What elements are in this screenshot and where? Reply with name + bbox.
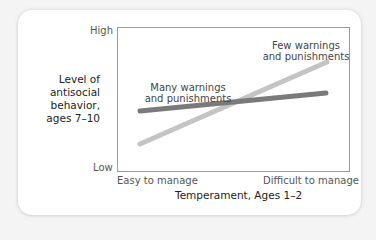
- y-label-line: behavior,: [22, 99, 100, 112]
- y-label-line: Level of: [22, 73, 100, 86]
- annotation-line: Many warnings: [128, 82, 248, 93]
- annotation-line: Few warnings: [256, 40, 356, 51]
- x-tick-easy: Easy to manage: [117, 175, 198, 186]
- annotation-few-warnings: Few warnings and punishments: [256, 40, 356, 62]
- y-tick-low: Low: [93, 162, 113, 173]
- y-label-line: antisocial: [22, 86, 100, 99]
- annotation-many-warnings: Many warnings and punishments: [128, 82, 248, 104]
- y-axis-label: Level of antisocial behavior, ages 7–10: [22, 73, 100, 125]
- x-axis-title: Temperament, Ages 1–2: [175, 189, 302, 201]
- y-tick-high: High: [90, 25, 113, 36]
- y-label-line: ages 7–10: [22, 112, 100, 125]
- annotation-line: and punishments: [128, 93, 248, 104]
- annotation-line: and punishments: [256, 51, 356, 62]
- x-tick-difficult: Difficult to manage: [263, 175, 359, 186]
